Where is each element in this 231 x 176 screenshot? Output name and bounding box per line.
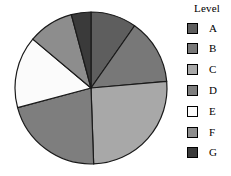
legend-label-b: B <box>209 43 216 54</box>
legend-swatch-d <box>187 85 198 96</box>
legend-label-e: E <box>209 106 216 117</box>
pie-slice-c[interactable] <box>91 81 167 164</box>
pie-chart-figure: Level ABCDEFG <box>0 0 231 176</box>
chart-legend: Level ABCDEFG <box>183 2 231 174</box>
legend-swatch-f <box>187 127 198 138</box>
legend-label-f: F <box>209 127 215 138</box>
pie-slices <box>15 12 167 164</box>
legend-label-c: C <box>209 64 216 75</box>
legend-item-c[interactable]: C <box>187 63 231 77</box>
legend-swatch-b <box>187 43 198 54</box>
legend-swatch-e <box>187 106 198 117</box>
legend-item-f[interactable]: F <box>187 125 231 139</box>
legend-swatch-a <box>187 23 198 34</box>
legend-label-a: A <box>209 23 217 34</box>
legend-item-e[interactable]: E <box>187 104 231 118</box>
legend-item-g[interactable]: G <box>187 146 231 160</box>
legend-title: Level <box>183 2 231 15</box>
legend-item-b[interactable]: B <box>187 42 231 56</box>
pie-svg <box>13 8 169 168</box>
legend-swatch-g <box>187 147 198 158</box>
pie-plot-area <box>13 8 169 168</box>
legend-swatch-c <box>187 64 198 75</box>
legend-item-d[interactable]: D <box>187 83 231 97</box>
legend-label-d: D <box>209 85 217 96</box>
legend-label-g: G <box>209 147 217 158</box>
legend-item-a[interactable]: A <box>187 21 231 35</box>
